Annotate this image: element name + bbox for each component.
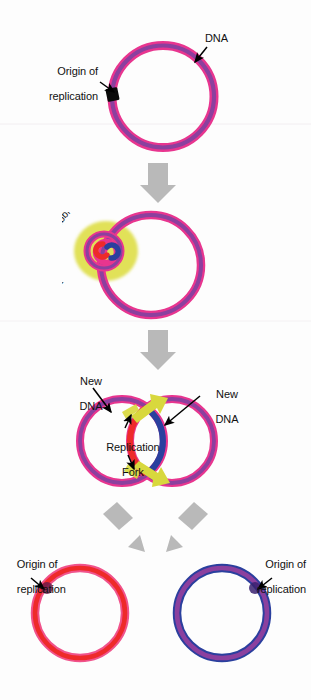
stage-1-parent-chromosome — [112, 46, 214, 148]
label-line-1: Replication — [106, 441, 159, 453]
dna-replication-figure: Origin of replication DNA Replication bu… — [0, 0, 311, 700]
process-arrow-3-to-4-left — [103, 502, 145, 552]
label-line-2: DNA — [79, 400, 102, 412]
label-line-2: DNA — [215, 413, 238, 425]
label-origin-of-replication-1: Origin of replication — [18, 52, 98, 115]
label-replication-bubble-wrap: Replication bubble — [62, 212, 157, 290]
label-line-2: replication — [17, 583, 66, 595]
label-line-1: Origin of — [17, 558, 58, 570]
label-line-1: Origin of — [57, 65, 98, 77]
label-line-1: Origin of — [265, 558, 306, 570]
label-origin-of-replication-left: Origin of replication — [5, 545, 95, 608]
label-new-dna-left: New DNA — [62, 362, 108, 425]
parent-strand-inner-purple — [112, 46, 214, 148]
label-line-2: replication — [257, 583, 306, 595]
label-new-dna-right: New DNA — [198, 375, 244, 438]
label-line-1: New — [216, 388, 238, 400]
process-arrow-2-to-3 — [140, 330, 176, 370]
label-replication-fork: Replication Fork — [85, 428, 169, 491]
label-line-1: New — [80, 375, 102, 387]
label-replication-bubble: Replication bubble — [62, 212, 76, 288]
label-line-2: replication — [49, 90, 98, 102]
process-arrow-1-to-2 — [140, 163, 176, 203]
process-arrow-3-to-4-right — [166, 502, 208, 552]
origin-of-replication-marker — [105, 87, 119, 102]
replication-bubble-arc-svg: Replication bubble — [62, 212, 157, 290]
label-line-2: Fork — [122, 466, 144, 478]
label-dna-1: DNA — [205, 32, 228, 45]
label-origin-of-replication-right: Origin of replication — [216, 545, 306, 608]
